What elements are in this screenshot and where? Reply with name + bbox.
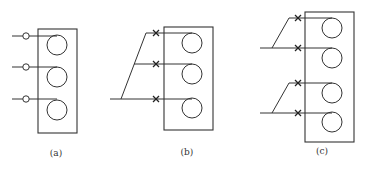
switch-circle-icon	[23, 33, 29, 39]
wiring-diagram: (a) (b)	[0, 0, 370, 169]
lamp-circle	[47, 67, 67, 87]
panel-c: (c)	[260, 12, 354, 156]
trunk-wire	[272, 18, 289, 48]
lamp-circle	[47, 100, 67, 120]
lamp-box-b	[164, 27, 213, 130]
switch-circle-icon	[23, 64, 29, 70]
trunk-wire	[272, 83, 289, 113]
panel-label-b: (b)	[181, 147, 194, 157]
lamp-circle	[322, 18, 342, 38]
lamp-box-a	[38, 29, 77, 133]
lamp-circle	[182, 98, 202, 118]
lamp-circle	[322, 48, 342, 68]
lamp-circle	[182, 64, 202, 84]
lamp-circle	[47, 35, 67, 55]
panel-label-c: (c)	[316, 146, 328, 156]
lamp-circle	[322, 112, 342, 132]
lamp-box-c	[305, 12, 354, 142]
lamp-circle	[322, 83, 342, 103]
switch-circle-icon	[23, 96, 29, 102]
panel-b: (b)	[110, 27, 213, 157]
panel-label-a: (a)	[50, 148, 62, 158]
lamp-circle	[182, 33, 202, 53]
panel-a: (a)	[12, 29, 77, 158]
trunk-wire	[121, 33, 146, 99]
